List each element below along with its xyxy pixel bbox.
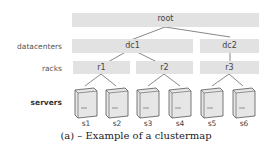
node-r3: r3 <box>200 61 259 74</box>
node-dc1: dc1 <box>72 39 193 53</box>
server-icon <box>103 86 130 119</box>
node-root: root <box>72 13 259 27</box>
server-label-s4: s4 <box>167 119 193 128</box>
server-icon <box>72 86 99 119</box>
server-icon <box>198 86 225 119</box>
server-icon <box>230 86 257 119</box>
node-dc2: dc2 <box>200 39 259 53</box>
server-icon <box>166 86 193 119</box>
server-label-s2: s2 <box>104 119 130 128</box>
level-label-servers: servers <box>0 98 62 107</box>
server-label-s3: s3 <box>135 119 161 128</box>
server-label-s1: s1 <box>73 119 99 128</box>
server-label-s5: s5 <box>199 119 225 128</box>
server-label-s6: s6 <box>231 119 257 128</box>
level-label-racks: racks <box>0 64 62 73</box>
node-r1: r1 <box>73 61 130 74</box>
server-icon <box>134 86 161 119</box>
node-r2: r2 <box>136 61 193 74</box>
figure-caption: (a) – Example of a clustermap <box>0 130 272 141</box>
level-label-datacenters: datacenters <box>0 42 62 51</box>
